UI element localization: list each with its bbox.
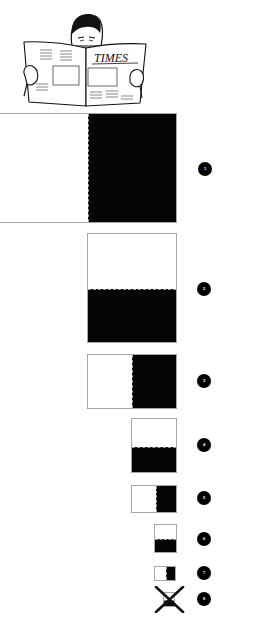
panel-6 bbox=[154, 524, 177, 553]
panel-6-number-badge: 6 bbox=[197, 532, 211, 546]
panel-2-black-fill bbox=[88, 289, 176, 342]
newspaper-icon: TIMES bbox=[24, 42, 146, 106]
panel-3-black-fill bbox=[132, 355, 176, 408]
panel-3 bbox=[87, 354, 177, 409]
panel-1-number-badge: 1 bbox=[198, 162, 212, 176]
panel-1-black-fill bbox=[88, 114, 176, 222]
head-icon bbox=[71, 14, 102, 46]
panel-8-number-badge: 8 bbox=[197, 592, 211, 606]
panel-6-black-fill bbox=[155, 539, 176, 552]
newspaper-reader-illustration: TIMES bbox=[0, 0, 259, 110]
panel-4-black-fill bbox=[132, 447, 176, 472]
panel-7 bbox=[154, 566, 176, 581]
panel-7-number-badge: 7 bbox=[197, 566, 211, 580]
panel-2-number-badge: 2 bbox=[197, 282, 211, 296]
panel-1 bbox=[0, 113, 177, 223]
panel-3-number-badge: 3 bbox=[197, 374, 211, 388]
panel-4-number-badge: 4 bbox=[197, 438, 211, 452]
panel-5 bbox=[131, 485, 177, 513]
panel-5-number-badge: 5 bbox=[197, 491, 211, 505]
panel-5-black-fill bbox=[156, 486, 176, 512]
svg-text:TIMES: TIMES bbox=[94, 51, 128, 65]
panel-7-black-fill bbox=[166, 567, 175, 580]
panel-2 bbox=[87, 233, 177, 343]
panel-4 bbox=[131, 418, 177, 473]
cross-out-icon bbox=[154, 586, 185, 613]
